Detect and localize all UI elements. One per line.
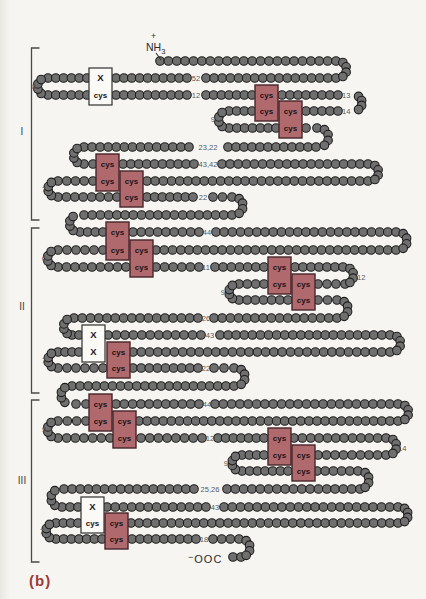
turn-bead: [63, 315, 72, 324]
bead: [90, 364, 99, 373]
bead: [260, 451, 269, 460]
bead: [301, 246, 310, 255]
turn-bead: [242, 551, 251, 560]
bead: [313, 331, 322, 340]
residue-count-label: 9: [42, 425, 46, 434]
bead: [71, 263, 80, 272]
bead: [152, 535, 161, 544]
bead: [356, 177, 365, 186]
bead: [291, 74, 300, 83]
bead: [326, 107, 335, 116]
bead: [304, 143, 313, 152]
bead: [313, 519, 322, 528]
bead: [195, 211, 204, 220]
bead: [321, 331, 330, 340]
bead: [269, 503, 278, 512]
bead: [177, 143, 186, 152]
bead: [169, 143, 178, 152]
bead: [165, 382, 174, 391]
bead: [326, 228, 335, 237]
bead: [265, 177, 274, 186]
bead: [81, 364, 90, 373]
bead: [167, 177, 176, 186]
bead: [133, 485, 142, 494]
bead: [264, 485, 273, 494]
bead: [161, 364, 170, 373]
bead: [353, 417, 362, 426]
bead: [240, 143, 249, 152]
bead: [252, 400, 261, 409]
bead: [329, 467, 338, 476]
bead: [195, 348, 204, 357]
bead: [81, 246, 90, 255]
bead: [189, 434, 198, 443]
bead: [211, 211, 220, 220]
bead: [210, 314, 219, 323]
bead: [78, 314, 87, 323]
cys-residue-label: cys: [273, 280, 287, 289]
bead: [289, 519, 298, 528]
bead: [302, 228, 311, 237]
bead: [336, 503, 345, 512]
bead: [253, 348, 262, 357]
cys-residue-label: cys: [135, 246, 149, 255]
bead: [228, 348, 237, 357]
bead: [209, 535, 218, 544]
bead: [226, 535, 235, 544]
bead: [208, 519, 217, 528]
bead: [294, 400, 303, 409]
bead: [259, 314, 268, 323]
bead: [62, 434, 71, 443]
bead: [305, 417, 314, 426]
bead: [189, 382, 198, 391]
bead: [97, 434, 106, 443]
bead: [289, 485, 298, 494]
bead: [137, 211, 146, 220]
bead: [321, 467, 330, 476]
bead: [135, 74, 144, 83]
cys-residue-label: cys: [260, 107, 274, 116]
bead: [377, 348, 386, 357]
bead: [216, 519, 225, 528]
bead: [151, 417, 160, 426]
bead: [270, 348, 279, 357]
bead: [345, 417, 354, 426]
bead: [113, 263, 122, 272]
bead: [178, 400, 187, 409]
bead: [193, 246, 202, 255]
bead: [157, 485, 166, 494]
bead: [186, 263, 195, 272]
bead: [369, 519, 378, 528]
bead: [267, 296, 276, 305]
bead: [361, 331, 370, 340]
bead: [317, 246, 326, 255]
bead: [168, 535, 177, 544]
bead: [299, 263, 308, 272]
bead: [218, 160, 227, 169]
bead: [350, 246, 359, 255]
bead: [302, 107, 311, 116]
bead: [154, 434, 163, 443]
bead: [334, 246, 343, 255]
bead: [90, 246, 99, 255]
turn-bead: [393, 346, 402, 355]
bead: [298, 485, 307, 494]
bead: [232, 519, 241, 528]
bead: [278, 348, 287, 357]
bead: [280, 331, 289, 340]
bead: [298, 57, 307, 66]
bead: [277, 228, 286, 237]
turn-bead: [320, 141, 329, 150]
bead: [337, 417, 346, 426]
bead: [159, 417, 168, 426]
bead: [127, 160, 136, 169]
bead: [206, 57, 215, 66]
bead: [248, 417, 257, 426]
bead: [378, 331, 387, 340]
bead: [216, 331, 225, 340]
bead: [280, 143, 289, 152]
bead: [177, 364, 186, 373]
bead: [377, 503, 386, 512]
bead: [378, 519, 387, 528]
bead: [359, 246, 368, 255]
